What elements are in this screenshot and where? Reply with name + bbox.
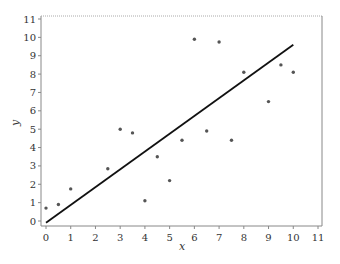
data-point xyxy=(205,129,208,132)
data-point xyxy=(131,131,134,134)
y-tick-label: 5 xyxy=(30,124,36,135)
x-tick-label: 7 xyxy=(216,232,222,243)
x-tick-label: 3 xyxy=(117,232,123,243)
data-point xyxy=(143,199,146,202)
data-point xyxy=(168,179,171,182)
data-point xyxy=(242,71,245,74)
y-tick-label: 9 xyxy=(30,50,36,61)
data-point xyxy=(279,63,282,66)
data-point xyxy=(156,155,159,158)
data-point xyxy=(292,71,295,74)
data-point xyxy=(193,38,196,41)
x-axis-label: x xyxy=(179,240,186,253)
y-tick-label: 1 xyxy=(30,197,36,208)
x-tick-label: 6 xyxy=(191,232,197,243)
x-tick-label: 1 xyxy=(68,232,74,243)
data-point xyxy=(267,100,270,103)
x-tick-label: 4 xyxy=(142,232,148,243)
data-point xyxy=(57,203,60,206)
data-point xyxy=(180,139,183,142)
x-tick-label: 10 xyxy=(287,232,300,243)
y-axis: 01234567891011 xyxy=(23,14,41,227)
x-tick-label: 8 xyxy=(241,232,247,243)
fit-line xyxy=(46,45,293,223)
y-tick-label: 6 xyxy=(30,105,36,116)
regression-line xyxy=(46,45,293,223)
data-point xyxy=(119,128,122,131)
y-tick-label: 7 xyxy=(30,87,36,98)
x-tick-label: 9 xyxy=(265,232,271,243)
data-point xyxy=(230,139,233,142)
data-point xyxy=(44,206,47,209)
x-tick-label: 11 xyxy=(312,232,325,243)
x-tick-label: 2 xyxy=(92,232,98,243)
y-tick-label: 0 xyxy=(30,216,36,227)
data-point xyxy=(69,187,72,190)
y-tick-label: 4 xyxy=(30,142,36,153)
y-tick-label: 11 xyxy=(23,14,36,25)
data-point xyxy=(217,40,220,43)
x-tick-label: 0 xyxy=(43,232,49,243)
plot-frame xyxy=(41,16,322,226)
y-tick-label: 3 xyxy=(30,160,36,171)
y-tick-label: 2 xyxy=(30,179,36,190)
y-tick-label: 10 xyxy=(23,32,36,43)
data-point xyxy=(106,167,109,170)
x-tick-label: 5 xyxy=(166,232,172,243)
data-points xyxy=(44,38,295,210)
scatter-chart: 01234567891011 01234567891011 x y xyxy=(0,0,340,264)
y-axis-label: y xyxy=(9,119,22,127)
y-tick-label: 8 xyxy=(30,69,36,80)
